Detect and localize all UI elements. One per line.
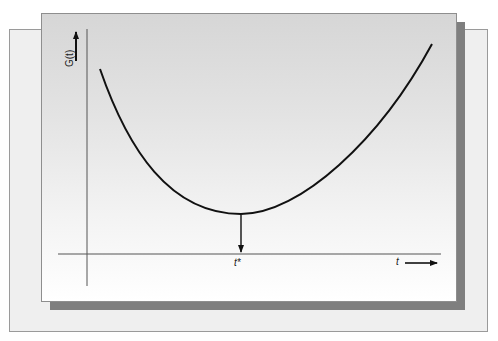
g-curve	[100, 44, 432, 214]
y-axis-label: G(t)	[64, 50, 75, 67]
x-axis-label: t	[396, 256, 399, 267]
minimum-label: t*	[234, 257, 241, 268]
